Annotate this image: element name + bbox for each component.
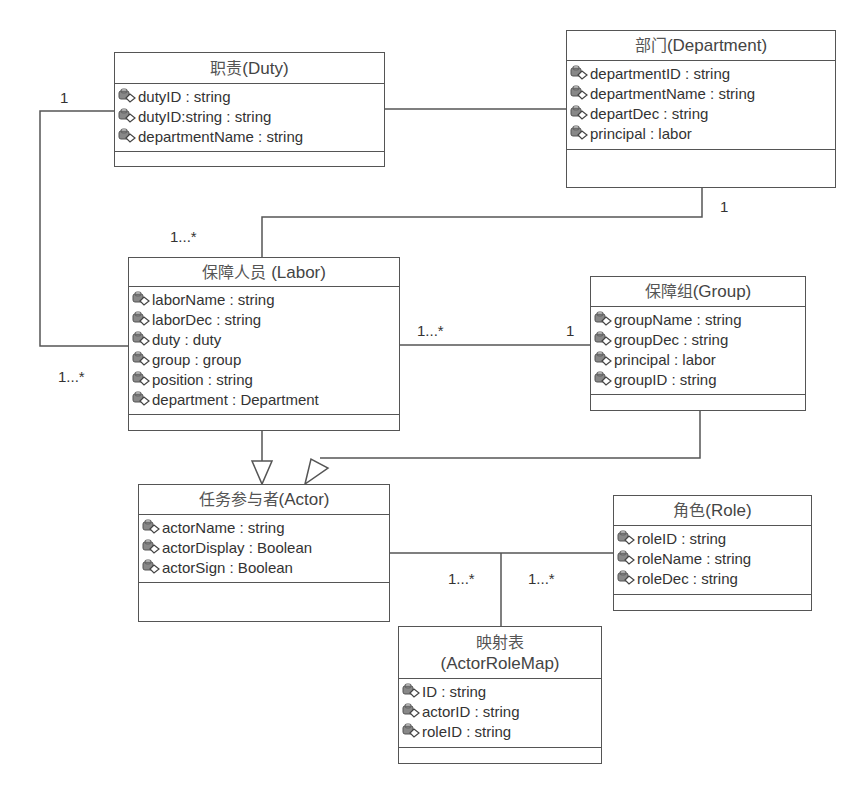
private-attribute-icon [570, 65, 589, 81]
class-name-cn: 部门 [635, 36, 667, 55]
class-header: 职责(Duty) [115, 53, 384, 84]
attribute-row[interactable]: position : string [132, 369, 399, 389]
attribute-row[interactable]: actorSign : Boolean [142, 557, 389, 577]
private-attribute-icon [402, 703, 421, 719]
attribute-text: laborDec : string [152, 311, 261, 328]
attribute-text: laborName : string [152, 291, 275, 308]
class-department[interactable]: 部门(Department) departmentID : string dep… [566, 30, 836, 188]
class-name-en: (Department) [667, 36, 767, 55]
attribute-text: departmentName : string [138, 128, 303, 145]
multiplicity-label: 1 [720, 198, 728, 215]
class-name-en: (ActorRoleMap) [399, 653, 601, 674]
attribute-row[interactable]: principal : labor [570, 123, 835, 143]
attribute-row[interactable]: groupName : string [594, 309, 805, 329]
attribute-row[interactable]: departmentID : string [570, 63, 835, 83]
class-actor-role-map[interactable]: 映射表 (ActorRoleMap) ID : string actorID :… [398, 626, 602, 764]
uml-class-diagram: 1 1...* 1 1...* 1...* 1 1...* 1...* 职责(D… [0, 0, 868, 799]
private-attribute-icon [570, 125, 589, 141]
attribute-row[interactable]: group : group [132, 349, 399, 369]
attribute-text: roleID : string [422, 723, 511, 740]
attribute-row[interactable]: principal : labor [594, 349, 805, 369]
attribute-text: groupDec : string [614, 331, 728, 348]
attribute-row[interactable]: groupDec : string [594, 329, 805, 349]
class-group[interactable]: 保障组(Group) groupName : string groupDec :… [590, 276, 806, 411]
attribute-compartment: roleID : string roleName : string roleDe… [614, 526, 811, 595]
attribute-text: actorID : string [422, 703, 520, 720]
attribute-row[interactable]: roleID : string [617, 528, 811, 548]
attribute-row[interactable]: dutyID : string [118, 86, 384, 106]
class-name-en: (Duty) [242, 59, 288, 78]
attribute-text: groupID : string [614, 371, 717, 388]
attribute-text: actorSign : Boolean [162, 559, 293, 576]
private-attribute-icon [402, 723, 421, 739]
class-duty[interactable]: 职责(Duty) dutyID : string dutyID:string :… [114, 52, 385, 167]
private-attribute-icon [570, 85, 589, 101]
private-attribute-icon [132, 351, 151, 367]
attribute-row[interactable]: dutyID:string : string [118, 106, 384, 126]
attribute-row[interactable]: roleName : string [617, 548, 811, 568]
attribute-row[interactable]: roleID : string [402, 721, 601, 741]
attribute-text: principal : labor [614, 351, 716, 368]
class-name-cn: 角色 [673, 501, 705, 520]
attribute-text: roleDec : string [637, 570, 738, 587]
private-attribute-icon [594, 351, 613, 367]
class-name-en: (Group) [693, 282, 752, 301]
class-labor[interactable]: 保障人员 (Labor) laborName : string laborDec… [128, 257, 400, 431]
attribute-text: ID : string [422, 683, 486, 700]
class-name-en: (Actor) [279, 490, 330, 509]
attribute-row[interactable]: departDec : string [570, 103, 835, 123]
attribute-text: roleID : string [637, 530, 726, 547]
attribute-text: departmentName : string [590, 85, 755, 102]
private-attribute-icon [132, 391, 151, 407]
class-header: 部门(Department) [567, 31, 835, 61]
private-attribute-icon [142, 539, 161, 555]
attribute-compartment: dutyID : string dutyID:string : string d… [115, 84, 384, 152]
class-name-en: (Role) [705, 501, 751, 520]
attribute-row[interactable]: roleDec : string [617, 568, 811, 588]
multiplicity-label: 1 [60, 89, 68, 106]
attribute-compartment: departmentID : string departmentName : s… [567, 61, 835, 150]
attribute-row[interactable]: departmentName : string [118, 126, 384, 146]
attribute-row[interactable]: groupID : string [594, 369, 805, 389]
generalization-arrowhead-labor [252, 461, 272, 484]
attribute-row[interactable]: actorDisplay : Boolean [142, 537, 389, 557]
private-attribute-icon [617, 570, 636, 586]
multiplicity-label: 1...* [528, 570, 555, 587]
class-header: 保障组(Group) [591, 277, 805, 307]
private-attribute-icon [594, 331, 613, 347]
attribute-row[interactable]: laborDec : string [132, 309, 399, 329]
attribute-row[interactable]: ID : string [402, 681, 601, 701]
private-attribute-icon [132, 371, 151, 387]
attribute-row[interactable]: duty : duty [132, 329, 399, 349]
attribute-row[interactable]: departmentName : string [570, 83, 835, 103]
attribute-row[interactable]: actorName : string [142, 517, 389, 537]
attribute-row[interactable]: actorID : string [402, 701, 601, 721]
multiplicity-label: 1...* [58, 368, 85, 385]
attribute-text: position : string [152, 371, 253, 388]
attribute-text: departDec : string [590, 105, 708, 122]
class-name-cn: 保障人员 [202, 263, 271, 282]
attribute-compartment: laborName : string laborDec : string dut… [129, 287, 399, 415]
class-role[interactable]: 角色(Role) roleID : string roleName : stri… [613, 495, 812, 611]
private-attribute-icon [118, 88, 137, 104]
private-attribute-icon [594, 311, 613, 327]
class-actor[interactable]: 任务参与者(Actor) actorName : string actorDis… [138, 484, 390, 622]
private-attribute-icon [594, 371, 613, 387]
attribute-row[interactable]: department : Department [132, 389, 399, 409]
private-attribute-icon [142, 519, 161, 535]
attribute-text: departmentID : string [590, 65, 730, 82]
class-name-cn: 任务参与者 [199, 490, 279, 509]
private-attribute-icon [118, 108, 137, 124]
private-attribute-icon [132, 311, 151, 327]
attribute-text: group : group [152, 351, 241, 368]
multiplicity-label: 1...* [170, 228, 197, 245]
multiplicity-label: 1 [566, 322, 574, 339]
attribute-text: duty : duty [152, 331, 221, 348]
attribute-row[interactable]: laborName : string [132, 289, 399, 309]
class-name-cn: 职责 [210, 59, 242, 78]
attribute-text: dutyID : string [138, 88, 231, 105]
attribute-text: dutyID:string : string [138, 108, 271, 125]
private-attribute-icon [132, 291, 151, 307]
class-header: 映射表 (ActorRoleMap) [399, 627, 601, 679]
class-header: 保障人员 (Labor) [129, 258, 399, 287]
